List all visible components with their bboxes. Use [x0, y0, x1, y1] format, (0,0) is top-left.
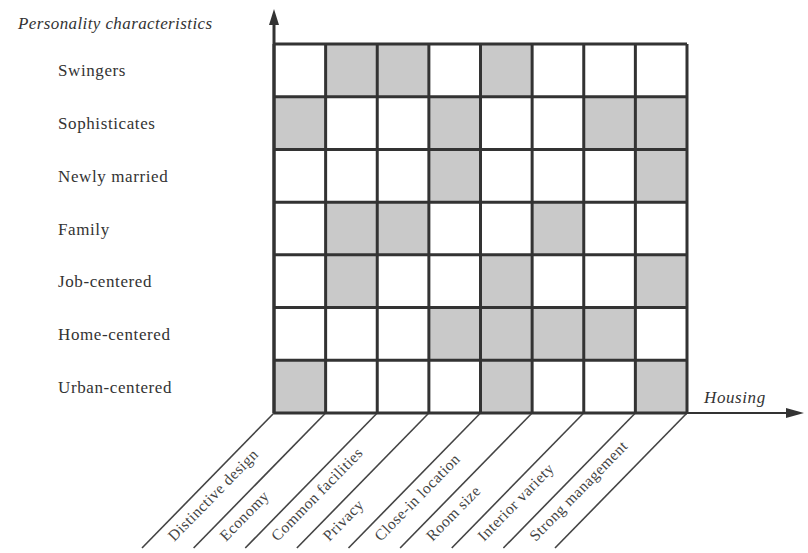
matrix-cell [635, 360, 687, 413]
matrix-cell [532, 202, 584, 255]
matrix-cell [377, 308, 429, 361]
row-label: Family [58, 220, 110, 239]
matrix-cell [481, 308, 533, 361]
column-label: Common facilities [268, 444, 366, 544]
matrix-cell [274, 149, 326, 202]
matrix-cell [377, 202, 429, 255]
matrix-cell [481, 202, 533, 255]
matrix-cell [584, 255, 636, 308]
matrix-cell [481, 360, 533, 413]
matrix-cell [635, 202, 687, 255]
column-guide-line [194, 413, 326, 548]
matrix-cell [274, 255, 326, 308]
matrix-cell [532, 255, 584, 308]
matrix-cell [429, 202, 481, 255]
column-guide-line [349, 413, 481, 548]
matrix-cell [326, 360, 378, 413]
row-label: Newly married [58, 167, 168, 186]
matrix-cell [584, 308, 636, 361]
matrix-cell [532, 360, 584, 413]
matrix-cell [429, 44, 481, 97]
matrix-cell [584, 44, 636, 97]
x-axis-arrow-icon [786, 408, 804, 418]
matrix-cell [429, 360, 481, 413]
matrix-cell [377, 44, 429, 97]
matrix-cell [532, 149, 584, 202]
matrix-cell [274, 308, 326, 361]
matrix-cell [635, 255, 687, 308]
column-guide-line [452, 413, 584, 548]
matrix-cell [584, 97, 636, 150]
column-label: Strong management [526, 437, 631, 544]
matrix-cell [326, 149, 378, 202]
matrix-cell [481, 97, 533, 150]
row-label: Swingers [58, 61, 126, 80]
column-guide-line [400, 413, 532, 548]
row-label: Urban-centered [58, 378, 172, 397]
matrix-cell [429, 308, 481, 361]
row-label: Sophisticates [58, 114, 156, 133]
matrix-cell [377, 149, 429, 202]
matrix-cell [635, 97, 687, 150]
matrix-cell [532, 44, 584, 97]
column-guide-line [297, 413, 429, 548]
column-guide-line [555, 413, 687, 548]
matrix-cell [584, 360, 636, 413]
matrix-cell [274, 97, 326, 150]
matrix-cell [377, 360, 429, 413]
matrix-cell [326, 255, 378, 308]
matrix-cell [274, 44, 326, 97]
matrix-cell [274, 360, 326, 413]
x-axis-title: Housing [703, 388, 766, 407]
matrix-cell [635, 44, 687, 97]
matrix-cell [635, 308, 687, 361]
matrix-cell [326, 44, 378, 97]
matrix-cell [429, 97, 481, 150]
row-label: Home-centered [58, 325, 171, 344]
y-axis-arrow-icon [269, 9, 279, 25]
matrix-cell [326, 308, 378, 361]
matrix-cell [481, 255, 533, 308]
matrix-cell [377, 255, 429, 308]
matrix-cell [377, 97, 429, 150]
matrix-cell [584, 202, 636, 255]
matrix-cell [481, 149, 533, 202]
matrix-cell [429, 149, 481, 202]
matrix-cell [635, 149, 687, 202]
personality-housing-matrix-diagram: Personality characteristics SwingersSoph… [0, 0, 808, 553]
matrix-cell [326, 97, 378, 150]
matrix-cell [429, 255, 481, 308]
column-guide-line [245, 413, 377, 548]
matrix-cell [481, 44, 533, 97]
column-guide-line [503, 413, 635, 548]
matrix-cell [274, 202, 326, 255]
matrix-cell [584, 149, 636, 202]
y-axis-title: Personality characteristics [17, 14, 212, 33]
row-labels: SwingersSophisticatesNewly marriedFamily… [58, 61, 172, 396]
matrix-cell [532, 308, 584, 361]
matrix-cell [326, 202, 378, 255]
row-label: Job-centered [58, 272, 152, 291]
matrix-cell [532, 97, 584, 150]
column-guide-line [142, 413, 274, 548]
